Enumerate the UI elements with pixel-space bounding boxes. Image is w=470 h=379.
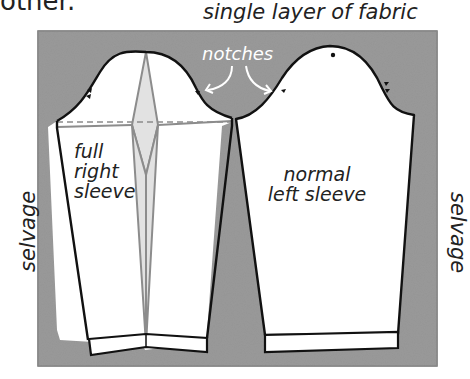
full-right-sleeve-label: full right sleeve: [74, 142, 136, 202]
label-line: normal: [262, 165, 372, 185]
label-line: sleeve: [74, 182, 136, 202]
label-line: full: [74, 142, 136, 162]
label-line: right: [74, 162, 136, 182]
hem-band-right: [265, 332, 398, 352]
normal-left-sleeve-label: normal left sleeve: [262, 165, 372, 205]
label-line: left sleeve: [262, 185, 372, 205]
shoulder-dot: [331, 53, 335, 57]
selvage-label-right: selvage: [446, 192, 470, 272]
selvage-label-left: selvage: [16, 192, 40, 272]
notches-annotation: notches: [202, 43, 273, 64]
